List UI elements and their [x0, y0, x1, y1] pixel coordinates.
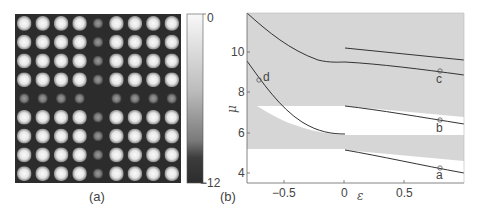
heatmap-spot-dim — [38, 93, 48, 103]
heatmap-spot-dim — [74, 93, 84, 103]
heatmap-spot-dim — [93, 18, 103, 28]
heatmap-spot — [54, 129, 68, 144]
heatmap-spot-dim — [111, 93, 121, 103]
point-label-c: c — [436, 72, 442, 86]
heatmap-spot — [17, 110, 31, 125]
heatmap-spot — [146, 166, 160, 181]
point-label-d: d — [263, 70, 270, 84]
heatmap-spot — [35, 35, 49, 50]
heatmap-spot — [72, 35, 86, 50]
heatmap-spot-dim — [93, 150, 103, 160]
figure: 0 −12 (a) — [0, 0, 477, 212]
panel-b-label: (b) — [220, 189, 236, 204]
heatmap-spot — [17, 54, 31, 69]
heatmap-spot — [54, 166, 68, 181]
heatmap-spot — [35, 166, 49, 181]
colorbar-max-label: 0 — [207, 11, 214, 25]
heatmap-spot — [35, 129, 49, 144]
heatmap-spot — [165, 54, 179, 69]
heatmap-spot — [109, 148, 123, 163]
heatmap-spot-dim — [93, 131, 103, 141]
colorbar — [187, 14, 203, 183]
heatmap-spot — [54, 16, 68, 31]
heatmap-spot — [17, 129, 31, 144]
heatmap-spot — [35, 110, 49, 125]
heatmap-spot — [109, 110, 123, 125]
y-axis-label: μ — [225, 105, 239, 113]
heatmap-spot-dim — [93, 56, 103, 66]
heatmap-spot — [128, 110, 142, 125]
heatmap-spot — [54, 110, 68, 125]
heatmap-spot — [72, 110, 86, 125]
heatmap-spot — [109, 35, 123, 50]
point-label-a: a — [436, 168, 443, 182]
heatmap-spot — [146, 16, 160, 31]
y-tick-6: 6 — [238, 126, 245, 140]
heatmap-spot — [72, 72, 86, 87]
x-tick-05: 0.5 — [396, 186, 413, 200]
heatmap-spot — [165, 166, 179, 181]
heatmap-spot — [165, 129, 179, 144]
panel-a: 0 −12 (a) — [15, 11, 221, 204]
y-tick-10: 10 — [231, 45, 245, 59]
heatmap-spot — [165, 35, 179, 50]
heatmap-spot — [165, 110, 179, 125]
heatmap-spot — [72, 54, 86, 69]
heatmap-spot — [146, 148, 160, 163]
heatmap-spot — [128, 72, 142, 87]
heatmap-spot — [146, 110, 160, 125]
colorbar-min-label: −12 — [200, 176, 221, 190]
heatmap-spot — [17, 72, 31, 87]
heatmap-spot-dim — [93, 112, 103, 122]
heatmap-spot — [146, 129, 160, 144]
heatmap-spot — [54, 54, 68, 69]
heatmap-spot-dim — [130, 93, 140, 103]
heatmap-spot — [54, 35, 68, 50]
heatmap-spot — [146, 54, 160, 69]
heatmap-spot-dim — [93, 168, 103, 178]
x-axis-label: ε — [357, 189, 363, 203]
heatmap-spot — [35, 148, 49, 163]
heatmap-spot — [17, 166, 31, 181]
heatmap-spot — [109, 16, 123, 31]
heatmap-spot — [128, 16, 142, 31]
heatmap-spot — [165, 148, 179, 163]
x-tick-0: 0 — [341, 186, 348, 200]
heatmap-spot — [54, 148, 68, 163]
heatmap-spot — [54, 72, 68, 87]
heatmap-spot — [17, 16, 31, 31]
y-tick-4: 4 — [238, 166, 245, 180]
heatmap-spot — [17, 35, 31, 50]
heatmap-spot — [35, 54, 49, 69]
heatmap-spot-dim — [56, 93, 66, 103]
panel-b: 4 6 8 10 μ −0.5 0 0.5 ε d c b a (b) — [220, 13, 464, 204]
heatmap-spot — [72, 148, 86, 163]
heatmap-spot — [109, 54, 123, 69]
heatmap-spot — [109, 166, 123, 181]
heatmap-spot — [109, 72, 123, 87]
heatmap-spot — [128, 166, 142, 181]
heatmap-spot — [109, 129, 123, 144]
heatmap-spot-dim — [148, 93, 158, 103]
y-tick-8: 8 — [238, 85, 245, 99]
panel-a-label: (a) — [89, 189, 105, 204]
heatmap-spot — [72, 166, 86, 181]
x-tick-neg05: −0.5 — [272, 186, 296, 200]
heatmap-spot-dim — [19, 93, 29, 103]
heatmap-spot — [146, 72, 160, 87]
heatmap-spot — [146, 35, 160, 50]
heatmap-spot — [17, 148, 31, 163]
heatmap-spot — [35, 72, 49, 87]
heatmap-spot-dim — [93, 75, 103, 85]
heatmap-spot — [72, 16, 86, 31]
heatmap-spot-dim — [167, 93, 177, 103]
heatmap-spot — [128, 148, 142, 163]
heatmap-spot — [128, 54, 142, 69]
heatmap-spot — [165, 16, 179, 31]
heatmap-spot — [72, 129, 86, 144]
heatmap-spot — [165, 72, 179, 87]
heatmap-spot — [128, 35, 142, 50]
heatmap-spot — [128, 129, 142, 144]
heatmap-spot-dim — [93, 37, 103, 47]
point-label-b: b — [436, 121, 443, 135]
